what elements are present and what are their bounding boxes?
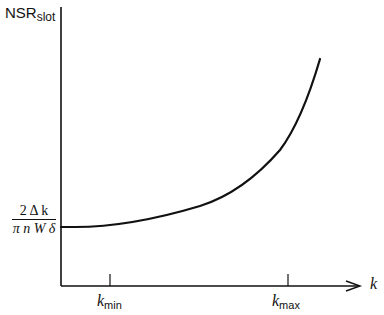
y-intercept-numerator: 2 Δ k	[12, 203, 56, 218]
kmax-label: kmax	[272, 292, 300, 311]
kmin-label: kmin	[97, 292, 122, 311]
nsr-curve	[61, 59, 320, 227]
y-axis-label: NSRslot	[5, 4, 55, 24]
y-intercept-label: 2 Δ k π n W δ	[12, 203, 56, 236]
nsr-slot-diagram	[0, 0, 384, 315]
fraction-bar	[12, 219, 56, 220]
x-axis-label: k	[370, 275, 377, 293]
y-intercept-denominator: π n W δ	[12, 221, 56, 236]
